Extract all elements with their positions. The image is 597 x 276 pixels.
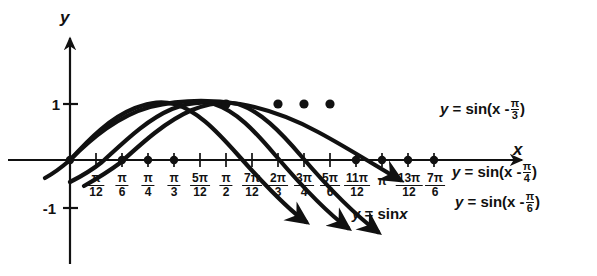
equation-lhs: y xyxy=(352,205,360,222)
x-tick-denominator: 6 xyxy=(425,185,445,199)
x-tick-numerator: 7π xyxy=(242,172,262,185)
equation-lhs: y xyxy=(440,100,448,117)
x-tick-label: 5π6 xyxy=(320,172,340,198)
marked-point-peak xyxy=(325,99,334,108)
y-axis-label: y xyxy=(60,8,69,28)
marked-point-peak xyxy=(221,99,230,108)
sine-phase-shift-figure: y x 1 -1 π12 π6 π4 π3 5π12 π2 7π12 2π3 3… xyxy=(0,0,597,276)
x-tick-denominator: 4 xyxy=(294,185,314,199)
y-tick-label-neg1: -1 xyxy=(26,200,56,217)
x-tick-denominator: 6 xyxy=(115,185,128,199)
equation-close-paren: ) xyxy=(535,193,540,210)
y-tick-label-1: 1 xyxy=(30,96,60,113)
marked-point-peak xyxy=(273,99,282,108)
equation-body: = sin(x - xyxy=(453,100,510,117)
x-tick-label: 5π12 xyxy=(190,172,210,198)
x-tick-denominator: 12 xyxy=(190,185,210,199)
equation-close-paren: ) xyxy=(520,100,525,117)
x-tick-numerator: π xyxy=(141,172,154,185)
equation-fraction-numerator: π xyxy=(523,161,531,172)
x-tick-numerator: π xyxy=(219,172,232,185)
x-tick-numerator: 2π xyxy=(268,172,288,185)
x-tick-denominator: 12 xyxy=(396,185,423,199)
plot-canvas xyxy=(0,0,597,276)
marked-point-zero xyxy=(118,156,126,164)
equation-lhs: y xyxy=(452,163,460,180)
equation-body: = sin xyxy=(365,205,400,222)
x-tick-numerator: 13π xyxy=(396,172,423,185)
marked-point-zero xyxy=(404,156,412,164)
curve-label-shift-pi-3: y = sin(x -π3) xyxy=(440,98,525,121)
marked-point-zero xyxy=(66,156,74,164)
equation-close-paren: ) xyxy=(532,163,537,180)
equation-body: = sin(x - xyxy=(468,193,525,210)
curve-label-shift-pi-6: y = sin(x -π6) xyxy=(455,191,540,214)
x-tick-numerator: π xyxy=(167,172,180,185)
x-tick-label: π4 xyxy=(141,172,154,198)
x-tick-denominator: 12 xyxy=(344,185,370,199)
x-tick-label: π6 xyxy=(115,172,128,198)
x-tick-denominator: 3 xyxy=(268,185,288,199)
x-tick-numerator: π xyxy=(377,174,386,187)
x-tick-label: 11π12 xyxy=(344,172,370,198)
curve-label-shift-pi-4: y = sin(x -π4) xyxy=(452,161,537,184)
x-tick-label: π3 xyxy=(167,172,180,198)
marked-point-zero xyxy=(144,156,152,164)
marked-point-zero xyxy=(430,156,438,164)
x-tick-numerator: 5π xyxy=(190,172,210,185)
x-tick-denominator: 6 xyxy=(320,185,340,199)
x-tick-denominator: 12 xyxy=(242,185,262,199)
equation-fraction-denominator: 6 xyxy=(526,202,534,214)
x-tick-denominator: 4 xyxy=(141,185,154,199)
marked-point-zero xyxy=(170,156,178,164)
x-tick-label: 3π4 xyxy=(294,172,314,198)
marked-point-peak xyxy=(299,99,308,108)
x-tick-numerator: 3π xyxy=(294,172,314,185)
x-tick-numerator: 7π xyxy=(425,172,445,185)
equation-body: = sin(x - xyxy=(465,163,522,180)
curve-group xyxy=(45,101,400,232)
equation-fraction-numerator: π xyxy=(511,98,519,109)
x-tick-denominator: 3 xyxy=(167,185,180,199)
equation-argument: x xyxy=(399,205,407,222)
x-tick-numerator: π xyxy=(87,172,104,185)
curve-sin-x-minus-pi-4 xyxy=(84,103,378,232)
x-tick-label: π2 xyxy=(219,172,232,198)
x-tick-label: 7π6 xyxy=(425,172,445,198)
x-tick-label: 7π12 xyxy=(242,172,262,198)
axis-lines xyxy=(8,38,522,264)
x-tick-label: π xyxy=(377,174,386,187)
x-tick-denominator: 12 xyxy=(87,185,104,199)
x-tick-numerator: π xyxy=(115,172,128,185)
x-tick-label: π12 xyxy=(87,172,104,198)
equation-lhs: y xyxy=(455,193,463,210)
curve-label-base-sine: y = sinx xyxy=(352,205,407,222)
equation-fraction-numerator: π xyxy=(526,191,534,202)
marked-point-zero xyxy=(378,156,386,164)
x-tick-numerator: 11π xyxy=(344,172,370,185)
x-tick-label: 2π3 xyxy=(268,172,288,198)
marked-point-zero xyxy=(352,156,360,164)
x-tick-label: 13π12 xyxy=(396,172,423,198)
equation-fraction-denominator: 3 xyxy=(511,109,519,121)
x-tick-numerator: 5π xyxy=(320,172,340,185)
x-tick-denominator: 2 xyxy=(219,185,232,199)
x-axis-label: x xyxy=(513,140,522,160)
equation-fraction-denominator: 4 xyxy=(523,172,531,184)
